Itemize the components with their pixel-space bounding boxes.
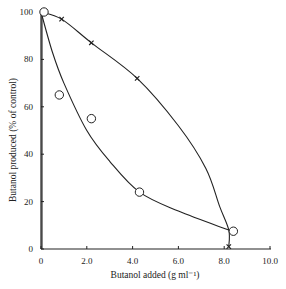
y-tick-label: 100 — [20, 7, 34, 17]
circle-marker — [55, 91, 63, 99]
cross-marker — [59, 17, 63, 21]
axes: 02.04.06.08.010.0020406080100 — [20, 7, 279, 266]
cross-marker — [89, 41, 93, 45]
chart: 02.04.06.08.010.0020406080100 Butanol ad… — [0, 0, 286, 289]
fit-curves — [41, 12, 229, 249]
circle-marker — [135, 188, 143, 196]
x-axis-title: Butanol added (g ml⁻¹) — [111, 270, 200, 281]
circle-marker — [87, 114, 95, 122]
x-tick-label: 0 — [39, 256, 44, 266]
y-tick-label: 40 — [24, 149, 34, 159]
y-tick-label: 20 — [24, 197, 34, 207]
x-tick-label: 6.0 — [173, 256, 185, 266]
cross-marker — [135, 76, 139, 80]
y-axis-title: Butanol produced (% of control) — [8, 78, 19, 202]
data-markers — [40, 8, 238, 249]
x-tick-label: 8.0 — [219, 256, 231, 266]
y-tick-label: 80 — [24, 54, 34, 64]
crosses-fit-curve — [41, 12, 229, 247]
y-tick-label: 0 — [29, 244, 34, 254]
circles-fit-curve — [41, 12, 229, 230]
circle-marker — [40, 8, 48, 16]
y-tick-label: 60 — [24, 102, 34, 112]
x-tick-label: 4.0 — [127, 256, 139, 266]
circle-marker — [229, 227, 237, 235]
x-tick-label: 10.0 — [262, 256, 278, 266]
x-tick-label: 2.0 — [81, 256, 93, 266]
